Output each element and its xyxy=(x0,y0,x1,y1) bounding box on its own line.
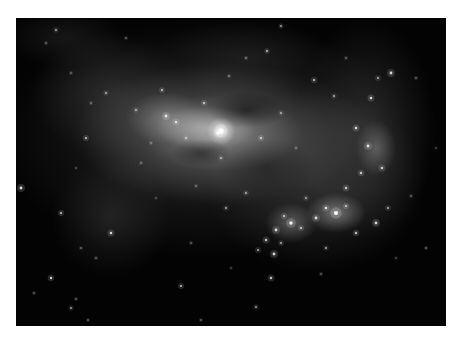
star xyxy=(85,137,87,139)
star xyxy=(203,102,205,104)
star xyxy=(255,306,257,308)
star xyxy=(273,253,276,256)
star xyxy=(266,50,268,52)
star xyxy=(70,72,72,74)
star xyxy=(381,167,384,170)
star xyxy=(333,95,335,97)
star xyxy=(355,232,357,234)
star xyxy=(161,89,163,91)
star xyxy=(275,229,278,232)
star xyxy=(60,212,62,214)
star xyxy=(305,197,307,199)
star xyxy=(265,239,268,242)
star xyxy=(280,242,282,244)
star xyxy=(190,242,192,244)
star xyxy=(280,112,282,114)
star xyxy=(245,57,247,59)
star xyxy=(435,147,436,148)
star xyxy=(135,109,137,111)
star xyxy=(415,77,417,79)
star xyxy=(165,115,168,118)
star xyxy=(283,215,285,217)
star xyxy=(320,273,322,275)
star xyxy=(390,72,393,75)
star xyxy=(315,217,318,220)
star xyxy=(225,207,227,209)
star xyxy=(155,197,156,198)
star xyxy=(360,172,362,174)
star xyxy=(289,221,293,225)
star xyxy=(75,167,76,168)
star xyxy=(216,131,220,135)
star xyxy=(367,145,370,148)
star xyxy=(75,298,77,300)
star xyxy=(325,207,328,210)
star xyxy=(345,187,348,190)
star xyxy=(200,319,202,321)
star xyxy=(220,157,222,159)
star xyxy=(175,121,177,123)
star xyxy=(375,222,378,225)
star xyxy=(33,292,35,294)
star xyxy=(395,257,396,258)
star xyxy=(280,25,282,27)
star xyxy=(425,247,427,249)
galaxy-photo xyxy=(16,18,446,326)
star xyxy=(295,147,297,149)
star xyxy=(345,205,347,207)
star xyxy=(387,207,389,209)
star xyxy=(228,75,230,77)
star xyxy=(313,79,315,81)
star xyxy=(334,211,338,215)
star xyxy=(140,162,142,164)
star xyxy=(90,102,92,104)
star xyxy=(345,57,347,59)
star xyxy=(50,277,52,279)
page xyxy=(0,0,462,341)
star xyxy=(195,185,197,187)
star xyxy=(105,92,107,94)
star xyxy=(70,307,72,309)
star xyxy=(45,42,47,44)
star xyxy=(95,257,97,259)
star-field xyxy=(16,18,446,326)
star xyxy=(270,277,273,280)
star xyxy=(245,192,247,194)
star xyxy=(20,187,23,190)
star xyxy=(55,29,57,31)
star xyxy=(150,142,152,144)
star xyxy=(257,249,259,251)
star xyxy=(230,267,231,268)
star xyxy=(300,227,302,229)
star xyxy=(355,127,358,130)
star xyxy=(125,37,127,39)
star xyxy=(180,285,182,287)
star xyxy=(110,232,113,235)
star xyxy=(325,247,327,249)
star xyxy=(185,137,187,139)
star xyxy=(87,319,89,321)
star xyxy=(80,247,82,249)
star xyxy=(410,195,412,197)
star xyxy=(377,77,379,79)
star xyxy=(370,97,373,100)
star xyxy=(260,137,262,139)
